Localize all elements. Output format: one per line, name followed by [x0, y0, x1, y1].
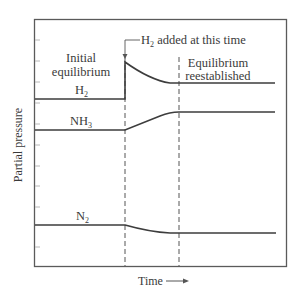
n2-curve	[35, 225, 276, 233]
initial-equilibrium-label-line1: Initial	[66, 51, 96, 65]
y-axis-label: Partial pressure	[11, 108, 25, 182]
x-axis-arrow-icon	[183, 279, 189, 284]
initial-equilibrium-label-line2: equilibrium	[52, 65, 111, 79]
x-axis-label: Time	[138, 274, 163, 288]
equilibrium-chart: H2 added at this time Initial equilibriu…	[0, 0, 302, 296]
n2-series-label: N2	[76, 209, 89, 225]
reestablished-label-line1: Equilibrium	[188, 56, 249, 70]
h2-added-annotation: H2 added at this time	[141, 33, 246, 49]
annotation-arrow-icon	[123, 54, 128, 59]
nh3-series-label: NH3	[70, 114, 92, 130]
h2-series-label: H2	[75, 83, 88, 99]
reestablished-label-line2: reestablished	[185, 69, 251, 83]
y-axis-ticks	[35, 40, 40, 247]
